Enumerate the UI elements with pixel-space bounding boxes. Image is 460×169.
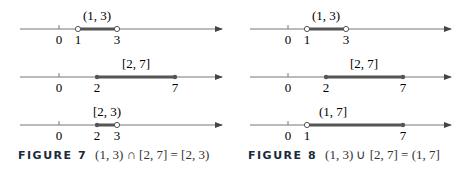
svg-text:0: 0 <box>56 80 63 95</box>
svg-text:7: 7 <box>400 128 407 143</box>
svg-text:3: 3 <box>343 32 350 47</box>
interval-label: (1, 3) <box>83 8 111 23</box>
svg-text:1: 1 <box>304 32 311 47</box>
number-line-right-3: (1, 7] 0 1 7 <box>250 104 451 143</box>
svg-text:0: 0 <box>285 80 292 95</box>
svg-text:2: 2 <box>94 128 101 143</box>
figure-label: FIGURE 8 <box>248 149 317 162</box>
svg-text:0: 0 <box>285 128 292 143</box>
interval-label: [2, 3) <box>93 104 121 119</box>
number-line-left-2: [2, 7] 0 2 7 <box>20 56 222 95</box>
figure-7-caption: FIGURE 7(1, 3) ∩ [2, 7] = [2, 3) <box>18 147 209 163</box>
svg-text:1: 1 <box>304 128 311 143</box>
caption-expression: (1, 3) ∪ [2, 7] = (1, 7] <box>325 147 440 162</box>
svg-text:0: 0 <box>285 32 292 47</box>
interval-label: (1, 7] <box>319 104 347 119</box>
figure-label: FIGURE 7 <box>18 149 87 162</box>
svg-text:7: 7 <box>172 80 179 95</box>
svg-text:1: 1 <box>75 32 82 47</box>
interval-label: (1, 3) <box>312 8 340 23</box>
svg-text:3: 3 <box>114 32 121 47</box>
number-line-right-1: (1, 3) 0 1 3 <box>250 8 451 47</box>
svg-text:0: 0 <box>56 128 63 143</box>
svg-text:3: 3 <box>114 128 121 143</box>
number-line-left-3: [2, 3) 0 2 3 <box>20 104 222 143</box>
number-line-left-1: (1, 3) 0 1 3 <box>20 8 222 47</box>
interval-label: [2, 7] <box>350 56 378 71</box>
figure-8-caption: FIGURE 8(1, 3) ∪ [2, 7] = (1, 7] <box>248 147 440 163</box>
interval-diagrams: (1, 3) 0 1 3 [2, 7] 0 2 7 [2, 3) 0 2 3 (… <box>0 0 460 169</box>
svg-text:0: 0 <box>56 32 63 47</box>
interval-label: [2, 7] <box>122 56 150 71</box>
caption-expression: (1, 3) ∩ [2, 7] = [2, 3) <box>95 147 209 162</box>
svg-text:2: 2 <box>94 80 101 95</box>
svg-text:7: 7 <box>400 80 407 95</box>
svg-text:2: 2 <box>323 80 330 95</box>
number-line-right-2: [2, 7] 0 2 7 <box>250 56 451 95</box>
